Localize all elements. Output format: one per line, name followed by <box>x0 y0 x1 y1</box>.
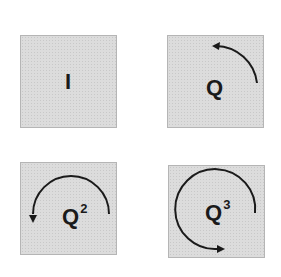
exponent: 3 <box>223 197 230 212</box>
quarter-turn-label: Q <box>206 77 223 99</box>
exponent: 2 <box>80 201 87 216</box>
identity-label: I <box>65 71 71 93</box>
panel-three-quarter-turn: Q3 <box>168 165 265 258</box>
half-turn-label: Q2 <box>62 206 87 228</box>
panel-identity: I <box>20 35 117 128</box>
panel-half-turn: Q2 <box>20 162 117 255</box>
panel-quarter-turn: Q <box>167 35 264 128</box>
q-symbol: Q <box>62 204 79 229</box>
identity-symbol: I <box>65 69 71 94</box>
q-symbol: Q <box>206 75 223 100</box>
three-quarter-turn-label: Q3 <box>205 202 230 224</box>
q-symbol: Q <box>205 200 222 225</box>
